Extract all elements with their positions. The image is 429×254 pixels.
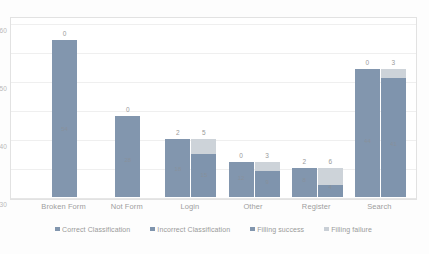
legend-item-3[interactable]: Filling failure xyxy=(324,226,372,233)
bar-classification: 120 xyxy=(229,19,254,198)
bar-segment-top xyxy=(381,69,406,78)
legend-swatch-icon xyxy=(250,227,255,232)
chart-legend: Correct ClassificationIncorrect Classifi… xyxy=(10,222,417,236)
y-tick-label: 40 xyxy=(0,143,7,150)
plot-frame: 0102030405060 54028018215512093824644041… xyxy=(10,17,417,200)
bar-value-label: 0 xyxy=(115,106,140,114)
legend-swatch-icon xyxy=(150,227,155,232)
bar-filling: 46 xyxy=(318,19,343,198)
legend-item-0[interactable]: Correct Classification xyxy=(55,226,130,233)
legend-label: Filling failure xyxy=(331,226,372,233)
bar-segment-base: 54 xyxy=(52,40,77,197)
bar-classification: 440 xyxy=(355,19,380,198)
bar-filling: 155 xyxy=(191,19,216,198)
bar-value-label: 0 xyxy=(355,59,380,67)
bar-segment-top xyxy=(191,139,216,154)
y-tick-label: 50 xyxy=(0,85,7,92)
legend-label: Incorrect Classification xyxy=(157,226,230,233)
bar-segment-base: 8 xyxy=(292,168,317,197)
bar-classification: 182 xyxy=(165,19,190,198)
bar-segment-base: 4 xyxy=(318,185,343,197)
legend-item-1[interactable]: Incorrect Classification xyxy=(150,226,230,233)
bar-inner-label: 44 xyxy=(355,138,380,145)
bar-group: 540 xyxy=(33,24,96,198)
x-axis-label-not-form: Not Form xyxy=(95,202,158,211)
bar-value-label: 3 xyxy=(255,152,280,160)
bar-group: 12093 xyxy=(223,24,286,198)
bar-segment-base: 12 xyxy=(229,162,254,197)
bar-value-label: 6 xyxy=(318,158,343,166)
x-axis-label-login: Login xyxy=(158,202,221,211)
bar-segment-base: 41 xyxy=(381,78,406,197)
bar-group: 280 xyxy=(96,24,159,198)
bar-segment-base: 28 xyxy=(115,116,140,197)
bar-classification: 82 xyxy=(292,19,317,198)
bar-filling: 93 xyxy=(255,19,280,198)
bar-classification: 540 xyxy=(52,19,77,198)
bar-inner-label: 15 xyxy=(191,172,216,179)
bar-segment-base: 18 xyxy=(165,139,190,197)
x-axis-label-broken-form: Broken Form xyxy=(32,202,95,211)
bar-value-label: 5 xyxy=(191,129,216,137)
bar-inner-label: 8 xyxy=(292,177,317,184)
legend-label: Correct Classification xyxy=(62,226,130,233)
axis-baseline: 0 xyxy=(11,198,416,199)
legend-swatch-icon xyxy=(324,227,329,232)
bar-segment-top xyxy=(318,168,343,185)
bar-value-label: 2 xyxy=(165,129,190,137)
bar-inner-label: 12 xyxy=(229,175,254,182)
bar-chart: 0102030405060 54028018215512093824644041… xyxy=(0,0,429,254)
legend-swatch-icon xyxy=(55,227,60,232)
x-axis-label-search: Search xyxy=(348,202,411,211)
bar-inner-label: 41 xyxy=(381,141,406,148)
bar-segment-top xyxy=(255,162,280,171)
bar-classification: 280 xyxy=(115,19,140,198)
bar-value-label: 0 xyxy=(229,152,254,160)
bar-value-label: 3 xyxy=(381,59,406,67)
plot-area: 540280182155120938246440413 xyxy=(33,24,410,198)
legend-label: Filling success xyxy=(257,226,304,233)
bar-value-label: 2 xyxy=(292,158,317,166)
x-axis-label-other: Other xyxy=(222,202,285,211)
x-axis-label-register: Register xyxy=(285,202,348,211)
x-axis-labels: Broken FormNot FormLoginOtherRegisterSea… xyxy=(10,202,417,218)
y-tick-label: 60 xyxy=(0,27,7,34)
bar-inner-label: 28 xyxy=(115,157,140,164)
bar-group: 182155 xyxy=(159,24,222,198)
bar-inner-label: 9 xyxy=(255,179,280,186)
bar-segment-base: 44 xyxy=(355,69,380,197)
bar-inner-label: 4 xyxy=(318,184,343,191)
bar-filling: 413 xyxy=(381,19,406,198)
bar-group: 440413 xyxy=(349,24,412,198)
bar-inner-label: 54 xyxy=(52,126,77,133)
bar-inner-label: 18 xyxy=(165,166,190,173)
y-tick-label: 30 xyxy=(0,201,7,208)
legend-item-2[interactable]: Filling success xyxy=(250,226,304,233)
bar-group: 8246 xyxy=(286,24,349,198)
bar-segment-base: 15 xyxy=(191,154,216,198)
bar-segment-base: 9 xyxy=(255,171,280,197)
bar-value-label: 0 xyxy=(52,30,77,38)
